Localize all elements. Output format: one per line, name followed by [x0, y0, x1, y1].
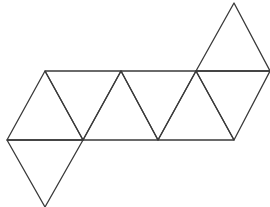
octahedron-net — [0, 0, 270, 207]
net-faces — [7, 3, 270, 207]
triangle-face-8 — [7, 140, 83, 207]
triangle-face-3 — [83, 71, 158, 140]
triangle-face-2 — [45, 71, 121, 140]
triangle-face-7 — [196, 3, 270, 71]
triangle-face-5 — [158, 71, 234, 140]
triangle-face-1 — [7, 71, 83, 140]
triangle-face-4 — [121, 71, 196, 140]
triangle-face-6 — [196, 71, 270, 140]
